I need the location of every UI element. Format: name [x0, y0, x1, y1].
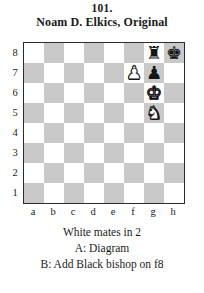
square-f4[interactable] — [124, 123, 144, 143]
square-a7[interactable] — [24, 63, 44, 83]
square-g2[interactable] — [144, 163, 164, 183]
square-c1[interactable] — [64, 183, 84, 203]
rank-label-7: 7 — [8, 63, 22, 83]
file-label-h: h — [163, 205, 183, 219]
square-d6[interactable] — [84, 83, 104, 103]
square-e3[interactable] — [104, 143, 124, 163]
square-e4[interactable] — [104, 123, 124, 143]
black-rook-g8[interactable]: ♜ — [144, 43, 164, 63]
square-h6[interactable] — [164, 83, 184, 103]
square-f5[interactable] — [124, 103, 144, 123]
square-a3[interactable] — [24, 143, 44, 163]
square-b8[interactable] — [44, 43, 64, 63]
square-a1[interactable] — [24, 183, 44, 203]
square-a6[interactable] — [24, 83, 44, 103]
square-e7[interactable] — [104, 63, 124, 83]
square-c4[interactable] — [64, 123, 84, 143]
square-g5[interactable]: ♞ — [144, 103, 164, 123]
square-h4[interactable] — [164, 123, 184, 143]
square-h5[interactable] — [164, 103, 184, 123]
stipulation-line: White mates in 2 — [0, 224, 204, 240]
twin-b-line: B: Add Black bishop on f8 — [0, 256, 204, 272]
chessboard-frame: ♜♚♟♟♚♞ — [23, 42, 185, 204]
square-b2[interactable] — [44, 163, 64, 183]
composer-line: Noam D. Elkics, Original — [0, 15, 204, 29]
square-f1[interactable] — [124, 183, 144, 203]
square-a4[interactable] — [24, 123, 44, 143]
square-e5[interactable] — [104, 103, 124, 123]
file-label-b: b — [43, 205, 63, 219]
square-a5[interactable] — [24, 103, 44, 123]
white-knight-g5[interactable]: ♞ — [144, 103, 164, 123]
title-block: 101. Noam D. Elkics, Original — [0, 0, 204, 29]
square-d1[interactable] — [84, 183, 104, 203]
square-e8[interactable] — [104, 43, 124, 63]
square-d3[interactable] — [84, 143, 104, 163]
black-pawn-g7[interactable]: ♟ — [144, 63, 164, 83]
square-b5[interactable] — [44, 103, 64, 123]
square-e6[interactable] — [104, 83, 124, 103]
white-king-g6[interactable]: ♚ — [144, 83, 164, 103]
file-label-c: c — [63, 205, 83, 219]
file-label-g: g — [143, 205, 163, 219]
square-a8[interactable] — [24, 43, 44, 63]
file-coordinate-labels: abcdefgh — [23, 205, 183, 219]
square-c3[interactable] — [64, 143, 84, 163]
file-label-e: e — [103, 205, 123, 219]
square-h3[interactable] — [164, 143, 184, 163]
square-h2[interactable] — [164, 163, 184, 183]
square-g1[interactable] — [144, 183, 164, 203]
rank-label-8: 8 — [8, 43, 22, 63]
square-f3[interactable] — [124, 143, 144, 163]
square-g4[interactable] — [144, 123, 164, 143]
square-h1[interactable] — [164, 183, 184, 203]
caption-block: White mates in 2 A: Diagram B: Add Black… — [0, 224, 204, 272]
rank-label-3: 3 — [8, 143, 22, 163]
square-a2[interactable] — [24, 163, 44, 183]
square-g8[interactable]: ♜ — [144, 43, 164, 63]
white-pawn-f7[interactable]: ♟ — [124, 63, 144, 83]
square-h8[interactable]: ♚ — [164, 43, 184, 63]
square-b4[interactable] — [44, 123, 64, 143]
square-g3[interactable] — [144, 143, 164, 163]
square-d4[interactable] — [84, 123, 104, 143]
rank-label-2: 2 — [8, 163, 22, 183]
square-f8[interactable] — [124, 43, 144, 63]
square-d5[interactable] — [84, 103, 104, 123]
square-c7[interactable] — [64, 63, 84, 83]
rank-coordinate-labels: 87654321 — [8, 43, 22, 203]
chessboard-grid: ♜♚♟♟♚♞ — [24, 43, 184, 203]
square-f6[interactable] — [124, 83, 144, 103]
square-e2[interactable] — [104, 163, 124, 183]
chess-diagram: 87654321 ♜♚♟♟♚♞ abcdefgh — [0, 38, 204, 218]
square-b1[interactable] — [44, 183, 64, 203]
file-label-f: f — [123, 205, 143, 219]
file-label-d: d — [83, 205, 103, 219]
square-b6[interactable] — [44, 83, 64, 103]
square-c8[interactable] — [64, 43, 84, 63]
square-b7[interactable] — [44, 63, 64, 83]
rank-label-4: 4 — [8, 123, 22, 143]
square-d2[interactable] — [84, 163, 104, 183]
square-f7[interactable]: ♟ — [124, 63, 144, 83]
rank-label-6: 6 — [8, 83, 22, 103]
rank-label-5: 5 — [8, 103, 22, 123]
file-label-a: a — [23, 205, 43, 219]
square-d8[interactable] — [84, 43, 104, 63]
square-g6[interactable]: ♚ — [144, 83, 164, 103]
square-b3[interactable] — [44, 143, 64, 163]
twin-a-line: A: Diagram — [0, 240, 204, 256]
square-c2[interactable] — [64, 163, 84, 183]
square-e1[interactable] — [104, 183, 124, 203]
problem-number: 101. — [0, 2, 204, 15]
square-c5[interactable] — [64, 103, 84, 123]
rank-label-1: 1 — [8, 183, 22, 203]
square-h7[interactable] — [164, 63, 184, 83]
black-king-h8[interactable]: ♚ — [164, 43, 184, 63]
square-g7[interactable]: ♟ — [144, 63, 164, 83]
square-d7[interactable] — [84, 63, 104, 83]
square-f2[interactable] — [124, 163, 144, 183]
square-c6[interactable] — [64, 83, 84, 103]
